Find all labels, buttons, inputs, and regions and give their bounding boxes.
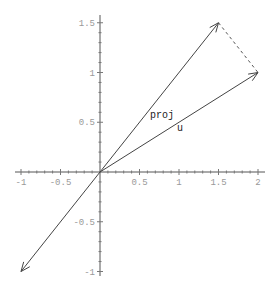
perpendicular-dashed-line [219,23,259,73]
y-tick-label: -0.5 [73,218,95,228]
proj-label: proj [150,110,174,121]
u-label: u [177,123,183,134]
y-tick-label: 1.5 [79,19,95,29]
axes [15,15,265,276]
x-tick-label: -1 [16,178,27,188]
y-tick-label: -1 [84,268,95,278]
vectors [21,23,258,272]
y-tick-label: 0.5 [79,118,95,128]
x-tick-label: -0.5 [50,178,72,188]
x-tick-label: 0.5 [131,178,147,188]
x-tick-label: 2 [255,178,260,188]
vector-plot: -1-0.50.511.521.510.5-0.5-1 proj u [0,0,275,291]
x-tick-label: 1.5 [210,178,226,188]
x-tick-label: 1 [176,178,181,188]
y-tick-label: 1 [90,69,95,79]
vector-proj [100,23,219,172]
